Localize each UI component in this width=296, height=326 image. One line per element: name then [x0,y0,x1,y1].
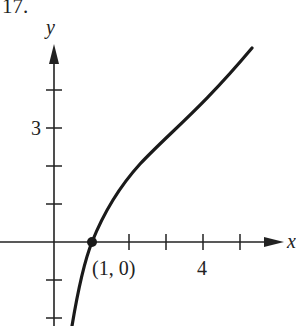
point-label: (1, 0) [92,257,135,280]
y-axis-label: y [44,16,55,39]
point-marker [87,237,97,247]
y-axis-arrow-icon [49,44,59,64]
log-curve [72,48,252,326]
x-axis-label: x [286,230,296,252]
y-tick-label-3: 3 [31,117,41,139]
x-tick-label-4: 4 [197,257,207,279]
x-axis-arrow-icon [264,237,284,247]
graph: y x 3 4 (1, 0) [0,0,296,326]
